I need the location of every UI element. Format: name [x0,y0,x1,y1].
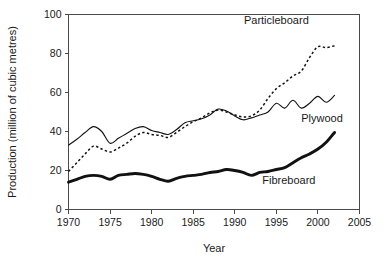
x-tick-label: 1985 [182,216,206,228]
x-tick-label: 1990 [223,216,247,228]
series-label-plywood: Plywood [301,112,343,124]
x-axis-title: Year [203,242,226,254]
y-tick-label: 40 [50,125,62,137]
x-tick-label: 1980 [140,216,164,228]
y-tick-label: 60 [50,86,62,98]
data-series-group [69,46,335,183]
y-tick-label: 80 [50,47,62,59]
production-line-chart: 020406080100 197019751980198519901995200… [0,0,388,265]
series-line-plywood [69,95,335,145]
y-tick-label: 0 [56,203,62,215]
x-tick-label: 1975 [98,216,122,228]
series-label-fibreboard: Fibreboard [262,174,315,186]
series-line-particleboard [69,46,335,172]
series-label-particleboard: Particleboard [244,14,309,26]
chart-container: 020406080100 197019751980198519901995200… [0,0,388,265]
y-axis-ticks: 020406080100 [44,8,69,215]
x-tick-label: 1995 [265,216,289,228]
x-tick-label: 2000 [306,216,330,228]
y-axis-title: Production (million of cubic metres) [6,26,18,198]
x-axis-ticks: 19701975198019851990199520002005 [57,210,372,228]
y-tick-label: 20 [50,164,62,176]
x-tick-label: 1970 [57,216,81,228]
x-tick-label: 2005 [348,216,372,228]
y-tick-label: 100 [44,8,62,20]
